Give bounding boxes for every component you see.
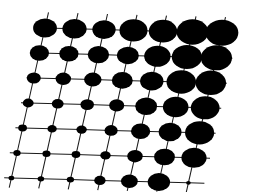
lattice-edge-diagonal <box>41 154 47 179</box>
lattice-node-marker <box>163 97 189 117</box>
lattice-edge-horizontal <box>11 178 41 179</box>
lattice-node-marker <box>109 99 124 111</box>
lattice-node-marker <box>186 181 191 185</box>
lattice-node-marker <box>206 20 239 46</box>
lattice-node-marker <box>80 99 94 110</box>
lattice-node-marker <box>38 176 45 181</box>
lattice-node-layer <box>9 18 239 190</box>
lattice-node-marker <box>67 177 74 183</box>
lattice-node-marker <box>18 125 27 132</box>
lattice-edge-diagonal <box>11 153 17 178</box>
lattice-node-marker <box>185 121 214 144</box>
lattice-edge-diagonal <box>70 155 76 180</box>
lattice-edge-diagonal <box>17 128 23 153</box>
lattice-node-marker <box>59 46 78 61</box>
lattice-node-marker <box>196 71 227 95</box>
lattice-node-marker <box>72 151 81 158</box>
lattice-node-marker <box>23 99 34 108</box>
lattice-node-marker <box>135 97 157 115</box>
lattice-node-marker <box>112 72 133 89</box>
lattice-edge-horizontal <box>41 179 71 180</box>
lattice-edge-horizontal <box>47 154 77 155</box>
lattice-node-marker <box>30 45 49 60</box>
lattice-node-marker <box>76 125 86 133</box>
lattice-node-marker <box>84 73 101 87</box>
lattice-node-marker <box>131 124 150 139</box>
lattice-node-marker <box>120 19 148 41</box>
lattice-node-marker <box>100 151 110 159</box>
lattice-node-marker <box>117 47 139 65</box>
lattice-node-marker <box>92 20 115 39</box>
lattice-node-marker <box>121 174 138 187</box>
lattice-node-marker <box>154 149 175 166</box>
lattice-node-marker <box>148 173 170 191</box>
lattice-node-marker <box>140 72 163 91</box>
lattice-node-marker <box>127 150 142 162</box>
lattice-edge-diagonal <box>47 129 53 154</box>
lattice-node-marker <box>13 150 20 156</box>
lattice-node-marker <box>177 19 209 44</box>
lattice-node-marker <box>144 46 170 67</box>
lattice-node-marker <box>159 123 182 141</box>
lattice-node-marker <box>181 148 206 168</box>
lattice-bubble-figure <box>0 0 274 192</box>
lattice-node-marker <box>47 125 56 132</box>
lattice-node-marker <box>94 176 105 185</box>
lattice-plot-svg <box>0 0 274 192</box>
lattice-node-marker <box>191 96 220 119</box>
lattice-node-marker <box>172 45 202 69</box>
lattice-node-marker <box>52 99 64 109</box>
lattice-node-marker <box>62 19 86 38</box>
lattice-node-marker <box>167 70 197 94</box>
lattice-node-marker <box>201 45 232 70</box>
lattice-node-marker <box>42 151 50 157</box>
lattice-node-marker <box>105 125 118 136</box>
lattice-node-marker <box>33 18 57 37</box>
lattice-node-marker <box>56 73 71 85</box>
lattice-node-marker <box>149 20 177 43</box>
lattice-node-marker <box>27 72 41 83</box>
lattice-node-marker <box>9 176 15 181</box>
lattice-edge-horizontal <box>17 153 47 154</box>
lattice-node-marker <box>88 46 109 63</box>
